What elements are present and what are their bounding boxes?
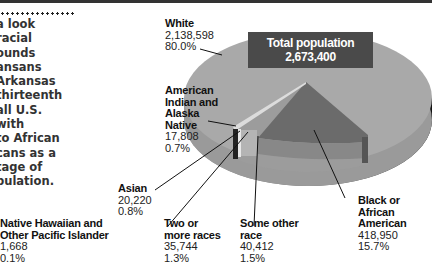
total-label: Total population (248, 36, 373, 50)
label-black: Black or African American 418,950 15.7% (358, 195, 407, 253)
label-white: White 2,138,598 80.0% (165, 18, 214, 53)
label-american-indian: American Indian and Alaska Native 17,808… (165, 85, 218, 154)
label-asian: Asian 20,220 0.8% (118, 183, 152, 218)
total-value: 2,673,400 (248, 50, 373, 64)
label-some-other-race: Some other race 40,412 1.5% (240, 218, 299, 264)
label-native-hawaiian: Native Hawaiian and Other Pacific Island… (0, 218, 109, 264)
total-population-box: Total population 2,673,400 (248, 32, 373, 68)
label-two-or-more: Two or more races 35,744 1.3% (164, 218, 221, 264)
